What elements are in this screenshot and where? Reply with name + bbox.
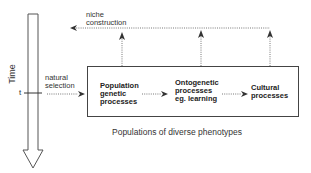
feedback-arrow-3 [267,30,273,66]
time-axis-label: Time [7,64,17,84]
process-2-line3: eg. learning [175,95,217,103]
niche-label-line2: construction [86,19,126,27]
caption: Populations of diverse phenotypes [112,127,242,137]
feedback-arrow-1 [119,32,125,66]
time-arrow [23,14,43,168]
process-1-line3: processes [100,98,137,106]
t-tick-label: t [19,88,21,97]
natural-selection-line2: selection [45,82,75,90]
feedback-arrow-2 [198,30,204,66]
natural-selection-arrow [47,91,85,97]
process-3-line2: processes [251,92,288,100]
